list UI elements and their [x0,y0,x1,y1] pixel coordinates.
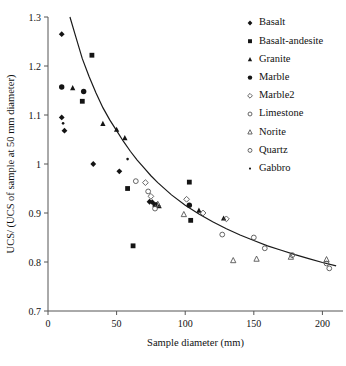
legend-marker-filled-triangle-icon [248,57,252,61]
series-norite [155,201,329,263]
data-point [188,218,193,223]
y-tick-label: 1.2 [29,61,42,72]
fit-curve-path [70,17,336,266]
data-point [184,196,190,202]
data-point [116,168,122,174]
data-point [254,256,259,261]
legend-label: Quartz [259,144,288,155]
data-point [133,179,138,184]
legend-marker-open-triangle-icon [248,130,252,134]
legend-label: Gabbro [259,162,291,173]
data-point [187,180,192,185]
data-point [148,193,154,199]
y-tick-label: 1.1 [29,110,42,121]
legend-item-marble[interactable]: Marble [248,71,290,82]
legend-item-basalt[interactable]: Basalt [248,16,286,27]
data-point [59,84,64,89]
y-axis-title: UCS/ (UCS of sample at 50 mm diameter) [5,74,17,253]
legend-label: Basalt-andesite [259,35,323,46]
legend-item-basalt-andesite[interactable]: Basalt-andesite [248,35,323,46]
series-gabbro [62,122,158,205]
legend-marker-filled-circle-icon [248,75,252,79]
x-tick-label: 200 [315,318,330,329]
legend: BasaltBasalt-andesiteGraniteMarbleMarble… [248,16,324,173]
data-point [146,189,151,194]
data-point [81,89,86,94]
legend-item-norite[interactable]: Norite [248,126,286,137]
legend-item-quartz[interactable]: Quartz [248,144,288,155]
legend-label: Basalt [259,16,285,27]
y-tick-label: 1.3 [29,12,42,23]
data-point [143,180,149,186]
data-point [262,246,267,251]
y-tick-label: 0.9 [29,208,42,219]
y-tick-label: 0.8 [29,257,42,268]
data-point [70,85,75,90]
legend-label: Marble [259,71,290,82]
data-point [90,161,96,167]
legend-label: Norite [259,126,286,137]
x-tick-label: 150 [246,318,261,329]
legend-marker-open-diamond-icon [248,93,253,98]
series-basalt-andesite [80,53,193,248]
data-point [59,31,65,37]
series-basalt [59,31,155,205]
data-point [231,258,236,263]
legend-marker-open-circle-icon [248,112,252,116]
data-point [131,243,136,248]
data-point [90,53,95,58]
legend-label: Marble2 [259,89,295,100]
chart-figure: 0.70.80.911.11.21.3050100150200 BasaltBa… [0,0,346,366]
legend-item-marble2[interactable]: Marble2 [248,89,295,100]
legend-item-limestone[interactable]: Limestone [248,107,304,118]
legend-item-gabbro[interactable]: Gabbro [249,162,291,173]
data-point [126,158,129,161]
data-point [251,235,256,240]
scatter-plot: 0.70.80.911.11.21.3050100150200 BasaltBa… [0,0,346,366]
data-point [80,99,85,104]
x-tick-label: 0 [46,318,51,329]
legend-marker-filled-square-icon [248,39,252,43]
axes: 0.70.80.911.11.21.3050100150200 [29,12,344,330]
data-point [181,211,186,216]
fit-curve [70,17,336,266]
series-quartz [153,206,295,257]
x-tick-label: 100 [178,318,193,329]
legend-marker-open-circle-icon [248,148,252,152]
data-point [59,115,65,121]
data-points [59,31,332,271]
data-point [100,121,105,126]
data-point [221,215,226,220]
legend-label: Granite [259,53,291,64]
y-tick-label: 1 [36,159,41,170]
legend-item-granite[interactable]: Granite [248,53,291,64]
legend-marker-small-dot-icon [249,168,251,170]
data-point [62,122,65,125]
data-point [187,202,192,207]
data-point [122,135,127,140]
legend-label: Limestone [259,107,304,118]
x-axis-title: Sample diameter (mm) [147,337,244,349]
legend-marker-filled-diamond-icon [248,21,253,26]
data-point [327,266,332,271]
data-point [62,128,68,134]
data-point [220,232,225,237]
x-tick-label: 50 [112,318,122,329]
data-point [125,186,130,191]
y-tick-label: 0.7 [29,306,42,317]
data-point [155,202,158,205]
